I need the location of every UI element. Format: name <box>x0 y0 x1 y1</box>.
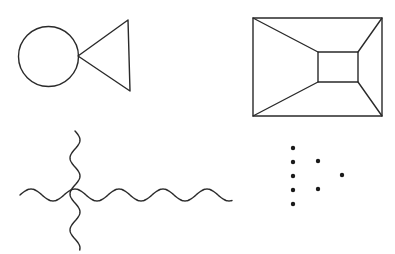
figure-canvas <box>0 0 395 254</box>
dot <box>291 160 295 164</box>
panel-dot-pattern <box>291 146 344 206</box>
connector-line <box>358 82 382 116</box>
horizontal-wavy-line <box>20 189 232 201</box>
connector-line <box>253 18 318 52</box>
dot <box>291 202 295 206</box>
dot <box>291 188 295 192</box>
dot <box>291 146 295 150</box>
panel-wavy-cross <box>20 131 232 250</box>
dot <box>291 174 295 178</box>
dot <box>340 173 344 177</box>
inner-rectangle-shape <box>318 52 358 82</box>
dot <box>316 187 320 191</box>
triangle-shape <box>78 20 130 91</box>
connector-line <box>358 18 382 52</box>
connector-line <box>253 82 318 116</box>
panel-perspective-rectangle <box>253 18 382 116</box>
circle-shape <box>19 27 79 87</box>
panel-circle-triangle <box>19 20 131 91</box>
dot <box>316 159 320 163</box>
